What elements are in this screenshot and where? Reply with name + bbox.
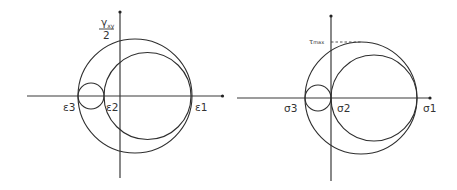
label-epsilon-1: ε1 (195, 101, 207, 113)
label-gamma-xy-over-2: γxy 2 (99, 16, 115, 41)
axis-arrow-dot-icon (118, 10, 121, 13)
label-epsilon-3: ε3 (63, 101, 75, 113)
axis-arrow-dot-icon (329, 14, 332, 17)
axis-arrow-dot-icon (428, 96, 431, 99)
denominator-2: 2 (103, 29, 110, 41)
label-sigma-1: σ1 (423, 102, 436, 114)
stress-diagram: τmax σ3 σ2 σ1 (237, 14, 436, 181)
svg-text:γxy: γxy (101, 16, 115, 30)
strain-diagram: ε3 ε2 ε1 γxy 2 (27, 10, 224, 178)
label-tau-max: τmax (309, 38, 324, 46)
mohr-circles-figure: ε3 ε2 ε1 γxy 2 τmax σ3 σ2 σ1 (0, 0, 457, 190)
label-sigma-3: σ3 (284, 102, 297, 114)
tau-subscript: max (313, 39, 324, 45)
label-epsilon-2: ε2 (106, 101, 118, 113)
label-sigma-2: σ2 (337, 102, 350, 114)
axis-arrow-dot-icon (221, 94, 224, 97)
